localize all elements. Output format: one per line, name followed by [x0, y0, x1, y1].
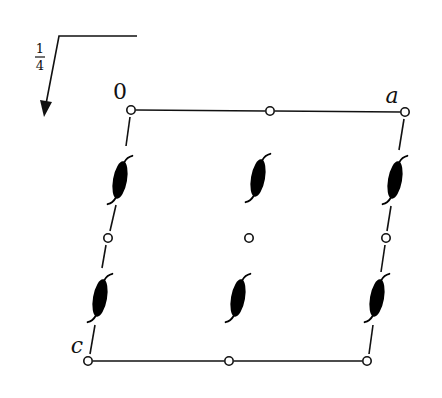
fraction-numerator: 1: [36, 41, 44, 56]
inversion-center-icon: [84, 357, 92, 365]
left-edge-segment: [110, 205, 116, 231]
inversion-center-icon: [104, 234, 112, 242]
a-axis-label: a: [385, 83, 398, 108]
inversion-center-icon: [401, 108, 409, 116]
height-indicator: 1 4: [35, 36, 137, 117]
twofold-screw-axis-icon: [226, 271, 251, 325]
inversion-center-icon: [225, 357, 233, 365]
top-edge-segment: [136, 110, 265, 111]
left-edge-segment: [90, 325, 95, 354]
right-edge-segment: [399, 119, 404, 150]
inversion-centers: [84, 106, 409, 365]
fraction-denominator: 4: [36, 58, 44, 73]
arrow-down-icon: [40, 100, 52, 117]
inversion-center-icon: [245, 234, 253, 242]
inversion-center-icon: [363, 357, 371, 365]
right-edge-segment: [387, 206, 391, 231]
right-edge-segment: [381, 245, 385, 272]
twofold-screw-axis-icon: [383, 153, 408, 207]
twofold-screw-axis-icon: [108, 153, 133, 207]
inversion-center-icon: [127, 106, 135, 114]
left-edge-segment: [102, 245, 106, 268]
right-edge-segment: [369, 325, 373, 354]
origin-label: 0: [113, 79, 127, 104]
inversion-center-icon: [266, 107, 274, 115]
symmetry-diagram: 1 4 0 a c: [0, 0, 442, 398]
left-edge-segment: [126, 117, 130, 146]
twofold-screw-axis-icon: [246, 151, 271, 205]
inversion-center-icon: [382, 234, 390, 242]
twofold-screw-axis-icon: [88, 271, 113, 325]
c-axis-label: c: [71, 333, 83, 358]
twofold-screw-axis-icon: [365, 271, 390, 325]
top-edge-segment: [275, 111, 400, 112]
